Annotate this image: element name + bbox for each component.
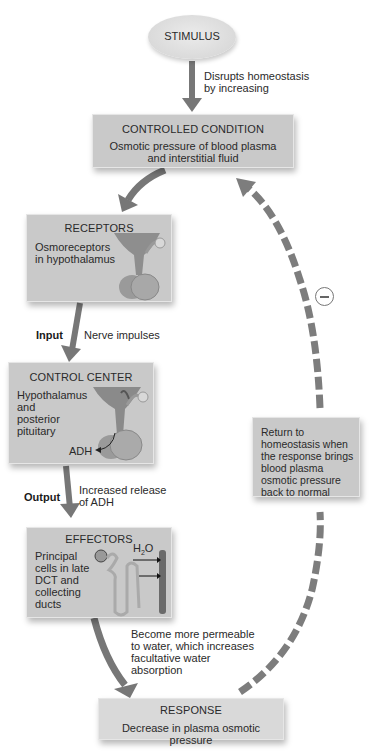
response-box: RESPONSE Decrease in plasma osmotic pres… <box>98 698 284 740</box>
response-text: Decrease in plasma osmotic pressure <box>99 722 283 746</box>
hypothalamus-pituitary-icon <box>112 231 170 301</box>
control-center-box: CONTROL CENTER Hypothalamus and posterio… <box>8 362 154 464</box>
receptors-box: RECEPTORS Osmoreceptors in hypothalamus <box>26 214 172 302</box>
receptors-text: Osmoreceptors in hypothalamus <box>35 241 115 265</box>
output-text: Increased release of ADH <box>79 484 166 508</box>
control-center-title: CONTROL CENTER <box>9 371 153 383</box>
stimulus-label: STIMULUS <box>148 30 236 42</box>
minus-circle-icon <box>315 287 334 306</box>
control-center-text: Hypothalamus and posterior pituitary <box>17 389 87 437</box>
effectors-box: EFFECTORS Principal cells in late DCT an… <box>26 527 172 618</box>
nephron-collecting-duct-icon <box>87 546 173 618</box>
water-label: H2O <box>133 542 153 559</box>
feedback-box: Return to homeostasis when the response … <box>252 417 360 497</box>
minus-bar <box>320 296 329 298</box>
water-o: O <box>145 542 154 554</box>
effectors-text: Principal cells in late DCT and collecti… <box>35 550 89 610</box>
feedback-text: Return to homeostasis when the response … <box>261 426 353 498</box>
input-text: Nerve impulses <box>84 329 160 341</box>
input-label: Input <box>36 329 63 341</box>
stimulus-arrow <box>182 61 202 112</box>
output-arrow <box>60 466 80 518</box>
controlled-condition-text: Osmotic pressure of blood plasma and int… <box>93 140 293 164</box>
effector-arrow-text: Become more permeable to water, which in… <box>131 628 255 676</box>
adh-label: ADH <box>69 445 92 457</box>
stimulus-arrow-text: Disrupts homeostasis by increasing <box>204 70 309 94</box>
output-label: Output <box>24 491 60 503</box>
response-title: RESPONSE <box>99 704 283 716</box>
stimulus-oval: STIMULUS <box>148 15 236 59</box>
controlled-condition-title: CONTROLLED CONDITION <box>93 123 293 135</box>
input-arrow <box>61 303 81 362</box>
controlled-condition-box: CONTROLLED CONDITION Osmotic pressure of… <box>92 114 294 168</box>
adh-arrow-icon <box>93 431 119 455</box>
condition-to-receptors-arrow <box>118 170 165 212</box>
water-h: H <box>133 542 141 554</box>
